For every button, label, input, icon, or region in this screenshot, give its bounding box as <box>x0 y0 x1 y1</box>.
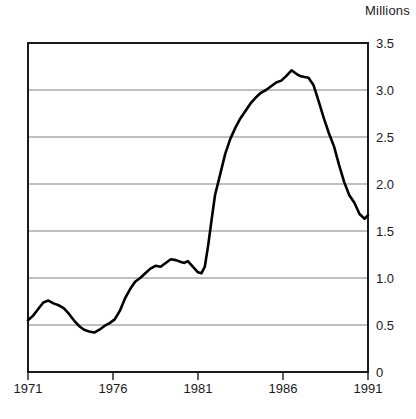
chart-figure: Millions 00.51.01.52.02.53.03.5 19711976… <box>0 0 416 419</box>
x-tick-label: 1976 <box>99 381 128 396</box>
x-tick-label: 1991 <box>354 381 383 396</box>
y-tick-label: 1.0 <box>376 271 394 286</box>
x-tick-label: 1971 <box>14 381 43 396</box>
y-tick-label: 0 <box>376 365 383 380</box>
x-tick-label: 1986 <box>269 381 298 396</box>
line-chart-canvas <box>0 0 416 419</box>
x-tick-marks-group <box>28 372 368 380</box>
data-series-line <box>28 70 368 332</box>
gridlines-group <box>28 90 368 325</box>
x-tick-label: 1981 <box>184 381 213 396</box>
y-tick-label: 3.0 <box>376 83 394 98</box>
y-tick-label: 2.0 <box>376 177 394 192</box>
y-tick-label: 3.5 <box>376 36 394 51</box>
y-tick-label: 0.5 <box>376 318 394 333</box>
y-tick-label: 1.5 <box>376 224 394 239</box>
y-tick-label: 2.5 <box>376 130 394 145</box>
